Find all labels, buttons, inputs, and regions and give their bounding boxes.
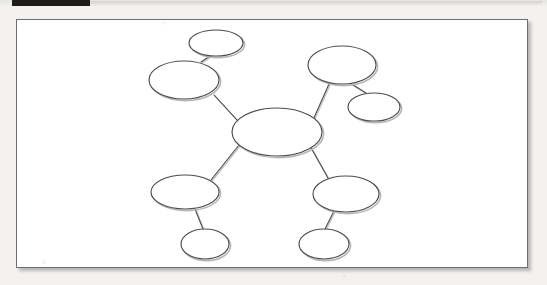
edge-center-to-upper-right[interactable]: [313, 84, 329, 120]
node-lower-left-ellipse[interactable]: [151, 175, 219, 209]
node-upper-left-ellipse[interactable]: [149, 61, 219, 99]
connector-shadow-center-upper-right: [314, 85, 330, 121]
connector-shadow-center-lower-left: [212, 146, 240, 181]
node-upper-right-leaf-ellipse[interactable]: [348, 93, 400, 121]
node-upper-left[interactable]: [149, 61, 219, 99]
node-lower-right-leaf-ellipse[interactable]: [299, 229, 349, 259]
scan-gray-rule: [90, 1, 542, 5]
node-lower-right-leaf[interactable]: [299, 229, 349, 259]
scan-black-bar: [12, 0, 90, 6]
edge-center-to-lower-right[interactable]: [310, 146, 328, 178]
node-center[interactable]: [232, 108, 322, 156]
bubble-map-diagram: [17, 20, 529, 269]
edge-lower-left-to-leaf[interactable]: [195, 209, 203, 229]
node-upper-right-ellipse[interactable]: [308, 46, 376, 84]
node-upper-right[interactable]: [308, 46, 376, 84]
node-lower-right[interactable]: [313, 176, 379, 212]
connector-shadow-lower-right-leaf: [326, 212, 335, 230]
connector-shadow-lower-left-leaf: [196, 210, 204, 230]
node-upper-left-leaf[interactable]: [189, 30, 243, 56]
diagram-frame: [16, 19, 528, 268]
edge-center-to-lower-left[interactable]: [211, 145, 239, 180]
node-group: [149, 30, 400, 259]
edge-lower-right-to-leaf[interactable]: [325, 211, 334, 229]
node-lower-left-leaf[interactable]: [181, 229, 229, 259]
node-lower-left-leaf-ellipse[interactable]: [181, 229, 229, 259]
node-lower-right-ellipse[interactable]: [313, 176, 379, 212]
edge-center-to-upper-left[interactable]: [214, 95, 237, 120]
node-upper-right-leaf[interactable]: [348, 93, 400, 121]
node-center-ellipse[interactable]: [232, 108, 322, 156]
node-upper-left-leaf-ellipse[interactable]: [189, 30, 243, 56]
scanned-page: [0, 0, 547, 285]
node-lower-left[interactable]: [151, 175, 219, 209]
